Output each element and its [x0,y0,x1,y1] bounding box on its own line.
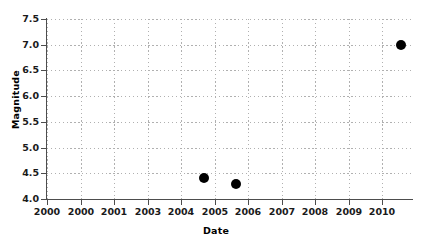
y-tick-label: 7.5 [5,14,39,24]
y-tick-label: 4.5 [5,168,39,178]
y-tick-mark [41,45,46,46]
data-point [396,40,406,50]
x-tick-mark [215,200,216,205]
x-tick-mark [181,200,182,205]
data-point [231,179,241,189]
x-tick-mark [382,200,383,205]
y-tick-mark [41,19,46,20]
x-tick-mark [282,200,283,205]
x-tick-mark [148,200,149,205]
x-tick-mark [81,200,82,205]
y-tick-mark [41,96,46,97]
x-tick-mark [114,200,115,205]
x-tick-label: 2010 [360,206,404,217]
y-tick-label: 7.0 [5,40,39,50]
x-axis-title: Date [0,225,432,236]
y-axis-title: Magnitude [10,50,21,150]
x-tick-mark [248,200,249,205]
y-tick-mark [41,122,46,123]
x-tick-mark [349,200,350,205]
y-axis-spine [46,18,47,200]
y-tick-mark [41,199,46,200]
plot-area [47,19,412,199]
y-tick-mark [41,148,46,149]
data-point [199,173,209,183]
y-tick-label: 4.0 [5,194,39,204]
y-tick-mark [41,173,46,174]
scatter-chart-figure: 4.04.55.05.56.06.57.07.5 200020002001200… [0,0,432,245]
y-tick-mark [41,70,46,71]
x-tick-mark [47,200,48,205]
x-axis-spine [46,199,413,200]
data-points-layer [47,19,412,199]
x-tick-mark [315,200,316,205]
